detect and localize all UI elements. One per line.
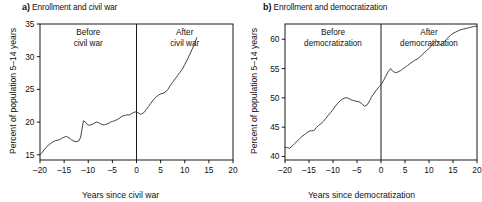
x-tick-label: 15 — [448, 165, 458, 175]
x-tick-label: –15 — [302, 165, 316, 175]
annotation-after: After — [420, 28, 438, 37]
x-tick-label: –5 — [352, 165, 362, 175]
x-tick-label: –10 — [81, 165, 95, 175]
x-tick-label: –20 — [33, 165, 47, 175]
annotation-before: Before — [321, 28, 346, 37]
x-tick-label: –10 — [326, 165, 340, 175]
annotation-before: Before — [76, 28, 101, 37]
x-tick-label: 5 — [158, 165, 163, 175]
annotation-after: After — [176, 28, 194, 37]
panel-b-svg: 4045505560–20–15–10–505101520Beforedemoc… — [241, 0, 482, 202]
panel-a-svg: 1520253035–20–15–10–505101520Beforecivil… — [0, 0, 241, 202]
y-tick-label: 30 — [25, 52, 35, 62]
y-tick-label: 50 — [270, 93, 280, 103]
x-tick-label: 20 — [228, 165, 238, 175]
x-tick-label: 0 — [134, 165, 139, 175]
annotation-after: democratization — [400, 39, 458, 48]
y-tick-label: 35 — [25, 19, 35, 29]
x-tick-label: –5 — [108, 165, 118, 175]
y-tick-label: 40 — [270, 151, 280, 161]
x-tick-label: 20 — [472, 165, 482, 175]
x-tick-label: 5 — [403, 165, 408, 175]
x-tick-label: 10 — [180, 165, 190, 175]
panel-b: b) Enrollment and democratization Percen… — [241, 0, 482, 202]
y-tick-label: 60 — [270, 34, 280, 44]
y-tick-label: 15 — [25, 150, 35, 160]
y-tick-label: 20 — [25, 117, 35, 127]
panel-a: a) Enrollment and civil war Percent of p… — [0, 0, 241, 202]
data-line — [40, 38, 197, 155]
y-tick-label: 25 — [25, 84, 35, 94]
x-tick-label: 15 — [204, 165, 214, 175]
panel-b-plot: 4045505560–20–15–10–505101520Beforedemoc… — [241, 0, 482, 202]
y-tick-label: 45 — [270, 122, 280, 132]
x-tick-label: –20 — [278, 165, 292, 175]
annotation-before: democratization — [304, 39, 362, 48]
figure-container: a) Enrollment and civil war Percent of p… — [0, 0, 482, 202]
x-tick-label: –15 — [57, 165, 71, 175]
x-tick-label: 0 — [379, 165, 384, 175]
panel-a-plot: 1520253035–20–15–10–505101520Beforecivil… — [0, 0, 241, 202]
annotation-before: civil war — [74, 39, 103, 48]
x-tick-label: 10 — [424, 165, 434, 175]
y-tick-label: 55 — [270, 64, 280, 74]
